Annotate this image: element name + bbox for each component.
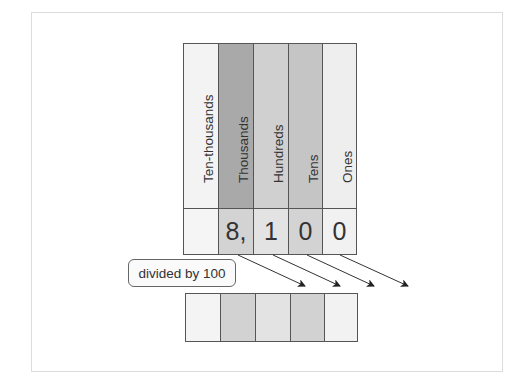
result-ten-thousands xyxy=(185,293,221,342)
arrow-icon xyxy=(238,255,305,286)
arrow-icon xyxy=(307,255,374,286)
arrow-icon xyxy=(340,255,408,286)
arrow-icon xyxy=(273,255,340,286)
result-ones xyxy=(324,293,358,342)
result-tens xyxy=(290,293,325,342)
result-thousands xyxy=(220,293,256,342)
result-hundreds xyxy=(255,293,291,342)
